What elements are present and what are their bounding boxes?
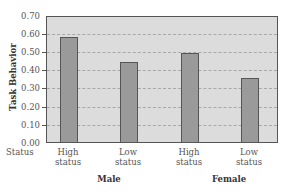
gridline	[47, 34, 277, 35]
y-tick-label: 0.60	[4, 29, 40, 39]
gridline	[47, 52, 277, 53]
bar-female-high-status	[181, 53, 199, 142]
bar-male-low-status	[120, 62, 138, 142]
x-category-label: Low status	[229, 147, 269, 167]
bar-female-low-status	[241, 78, 259, 142]
x-category-line1: Low	[229, 147, 269, 157]
gridline	[47, 70, 277, 71]
y-tick-label: 0.10	[4, 120, 40, 130]
x-category-line1: Low	[108, 147, 148, 157]
x-category-line1: High	[169, 147, 209, 157]
group-label-male: Male	[79, 174, 139, 184]
x-category-label: Low status	[108, 147, 148, 167]
x-category-line2: status	[108, 157, 148, 167]
y-tick-label: 0.70	[4, 11, 40, 21]
y-tick-label: 0.50	[4, 47, 40, 57]
group-label-female: Female	[199, 174, 259, 184]
x-category-line1: High	[48, 147, 88, 157]
x-axis-row-label: Status	[6, 147, 34, 157]
x-category-label: High status	[169, 147, 209, 167]
y-tick-label: 0.40	[4, 65, 40, 75]
x-category-line2: status	[169, 157, 209, 167]
y-tick-label: 0.30	[4, 83, 40, 93]
x-category-label: High status	[48, 147, 88, 167]
bar-male-high-status	[60, 37, 78, 142]
x-category-line2: status	[48, 157, 88, 167]
y-tick-label: 0.20	[4, 102, 40, 112]
x-category-line2: status	[229, 157, 269, 167]
plot-area	[46, 16, 278, 143]
